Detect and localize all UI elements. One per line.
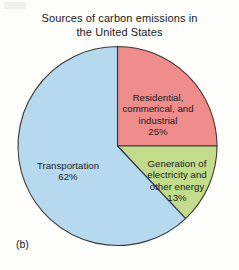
slice-label-transportation: Transportation 62% — [24, 148, 112, 194]
slice-label-generation: Generation of electricity and other ener… — [140, 146, 214, 216]
slice-label-generation-text: Generation of electricity and other ener… — [147, 158, 206, 192]
slice-value-residential: 25% — [118, 126, 198, 138]
figure-panel: Sources of carbon emissions in the Unite… — [0, 0, 239, 270]
slice-label-residential: Residential, commerical, and industrial … — [118, 80, 198, 150]
slice-label-transportation-text: Transportation — [37, 160, 99, 171]
slice-value-transportation: 62% — [24, 171, 112, 183]
figure-label: (b) — [16, 238, 29, 250]
slice-value-generation: 13% — [140, 192, 214, 204]
slice-label-residential-text: Residential, commerical, and industrial — [122, 92, 193, 126]
